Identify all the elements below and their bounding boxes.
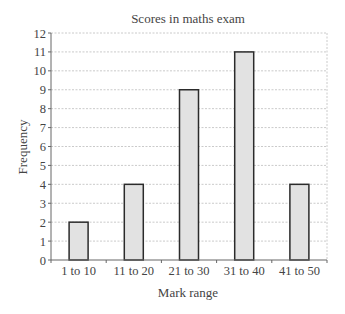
y-tick-label: 5 bbox=[40, 159, 46, 173]
y-tick-label: 1 bbox=[40, 235, 46, 249]
y-tick-label: 9 bbox=[40, 83, 46, 97]
y-tick-label: 3 bbox=[40, 197, 46, 211]
bar-chart: Scores in maths exam 0123456789101112 1 … bbox=[0, 0, 345, 314]
x-axis-label: Mark range bbox=[158, 285, 219, 300]
x-tick-label: 11 to 20 bbox=[114, 264, 155, 278]
x-tick-label: 41 to 50 bbox=[279, 264, 320, 278]
y-tick-label: 7 bbox=[40, 121, 46, 135]
y-tick-label: 0 bbox=[40, 254, 46, 268]
y-tick-label: 4 bbox=[40, 178, 47, 192]
x-tick-label: 31 to 40 bbox=[224, 264, 265, 278]
bar-1 bbox=[69, 222, 88, 260]
y-tick-label: 6 bbox=[40, 140, 46, 154]
y-axis-label: Frequency bbox=[15, 119, 30, 174]
bar-4 bbox=[235, 52, 254, 260]
x-tick-label: 21 to 30 bbox=[169, 264, 210, 278]
y-tick-label: 10 bbox=[34, 64, 47, 78]
x-axis-ticks: 1 to 1011 to 2021 to 3031 to 4041 to 50 bbox=[51, 260, 327, 278]
y-tick-label: 8 bbox=[40, 102, 46, 116]
y-tick-label: 11 bbox=[34, 45, 46, 59]
bar-2 bbox=[124, 184, 143, 260]
x-tick-label: 1 to 10 bbox=[61, 264, 96, 278]
y-tick-label: 2 bbox=[40, 216, 46, 230]
y-axis-ticks: 0123456789101112 bbox=[34, 27, 52, 268]
bars bbox=[69, 52, 309, 260]
bar-3 bbox=[180, 90, 199, 260]
bar-5 bbox=[290, 184, 309, 260]
y-tick-label: 12 bbox=[34, 27, 47, 41]
chart-title: Scores in maths exam bbox=[131, 11, 245, 26]
